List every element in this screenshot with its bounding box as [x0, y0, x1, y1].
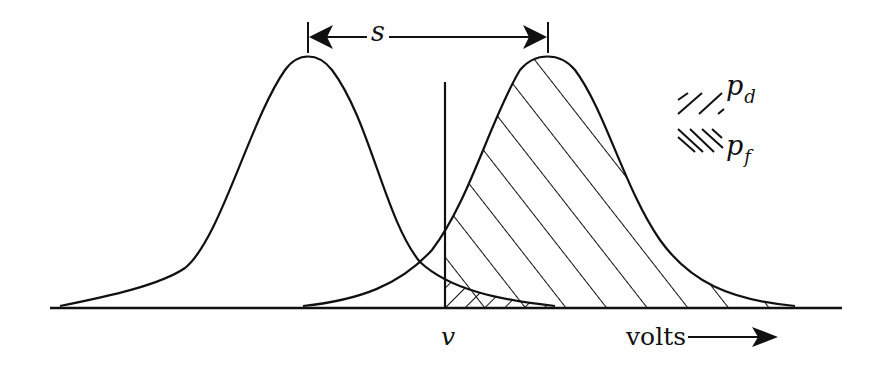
- axis-label-volts: volts: [626, 322, 686, 351]
- legend-swatch-pd: [678, 93, 724, 114]
- detection-diagram: [0, 0, 887, 369]
- separation-arrow: [308, 22, 548, 53]
- legend-label-pf: pf: [726, 130, 751, 161]
- volts-arrow-icon: [688, 327, 778, 347]
- threshold-label: v: [441, 322, 455, 351]
- legend-label-pd: pd: [726, 70, 756, 101]
- legend-swatch-pf: [678, 129, 723, 152]
- separation-label: s: [367, 18, 389, 46]
